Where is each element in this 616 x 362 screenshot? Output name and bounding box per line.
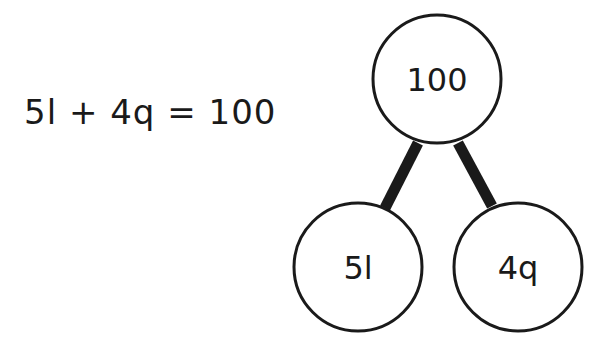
- whole-value: 100: [406, 61, 467, 99]
- left-connector-line: [385, 143, 418, 208]
- right-part-value: 4q: [498, 249, 539, 287]
- right-part-circle: 4q: [454, 203, 582, 331]
- whole-circle: 100: [373, 15, 501, 143]
- left-part-value: 5l: [343, 249, 372, 287]
- number-bond-diagram: 100 5l 4q: [0, 0, 616, 362]
- right-connector-line: [458, 143, 492, 206]
- left-part-circle: 5l: [294, 203, 422, 331]
